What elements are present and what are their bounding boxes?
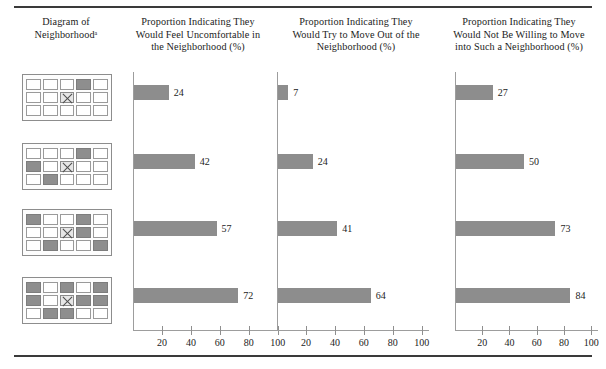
- bar: [278, 288, 371, 303]
- chart-not-willing: 2040608010027507384: [455, 72, 598, 330]
- x-axis-tick-label: 100: [584, 337, 599, 348]
- header-line: the Neighborhood (%): [122, 41, 274, 54]
- filled-house-cell: [43, 174, 58, 185]
- x-axis-tick: [191, 326, 192, 335]
- column-header-uncomfortable: Proportion Indicating TheyWould Feel Unc…: [122, 16, 274, 54]
- bar: [456, 288, 570, 303]
- x-axis-tick-label: 100: [414, 337, 429, 348]
- respondent-cell: [60, 295, 75, 306]
- empty-house-cell: [43, 295, 58, 306]
- header-line: Would Feel Uncomfortable in: [122, 29, 274, 42]
- x-axis-tick: [162, 326, 163, 335]
- x-axis-tick-label: 60: [215, 337, 225, 348]
- filled-house-cell: [76, 79, 91, 90]
- header-line: Proportion Indicating They: [282, 16, 430, 29]
- neighborhood-diagram-4: [22, 277, 112, 324]
- empty-house-cell: [93, 92, 108, 103]
- empty-house-cell: [26, 240, 41, 251]
- bar-value-label: 57: [222, 223, 232, 234]
- bar: [456, 154, 524, 169]
- filled-house-cell: [76, 295, 91, 306]
- x-axis-tick-label: 40: [504, 337, 514, 348]
- x-axis-tick-label: 40: [186, 337, 196, 348]
- header-line: Would Not Be Willing to Move: [440, 29, 598, 42]
- empty-house-cell: [93, 161, 108, 172]
- filled-house-cell: [93, 282, 108, 293]
- x-axis-tick: [422, 326, 423, 335]
- header-line: Neighborhood (%): [282, 41, 430, 54]
- x-axis-line: [455, 330, 598, 331]
- x-axis-tick: [220, 326, 221, 335]
- x-axis-tick: [306, 326, 307, 335]
- respondent-cell: [60, 227, 75, 238]
- bar-value-label: 27: [498, 87, 508, 98]
- bar-value-label: 50: [529, 156, 539, 167]
- empty-house-cell: [93, 308, 108, 319]
- empty-house-cell: [26, 227, 41, 238]
- x-axis-tick: [364, 326, 365, 335]
- empty-house-cell: [43, 214, 58, 225]
- x-axis-tick: [249, 326, 250, 335]
- diagram-grid: [26, 148, 108, 185]
- x-axis-tick: [564, 326, 565, 335]
- x-axis-tick: [482, 326, 483, 335]
- bar-value-label: 42: [200, 156, 210, 167]
- bar-value-label: 73: [560, 223, 570, 234]
- chart-uncomfortable: 2040608010024425772: [133, 72, 285, 330]
- neighborhood-diagram-2: [22, 143, 112, 190]
- bar: [456, 221, 555, 236]
- column-header-diagram: Diagram ofNeighborhoodᵃ: [14, 16, 118, 41]
- header-line: Would Try to Move Out of the: [282, 29, 430, 42]
- filled-house-cell: [26, 295, 41, 306]
- bar: [134, 85, 169, 100]
- x-axis-tick: [393, 326, 394, 335]
- bar-value-label: 41: [342, 223, 352, 234]
- filled-house-cell: [60, 282, 75, 293]
- empty-house-cell: [76, 92, 91, 103]
- diagram-grid: [26, 79, 108, 116]
- bar-value-label: 72: [243, 290, 253, 301]
- bar-value-label: 84: [575, 290, 585, 301]
- empty-house-cell: [76, 240, 91, 251]
- neighborhood-diagram-1: [22, 74, 112, 121]
- bar: [278, 154, 313, 169]
- bar: [134, 154, 195, 169]
- bar: [134, 288, 238, 303]
- empty-house-cell: [93, 79, 108, 90]
- empty-house-cell: [60, 240, 75, 251]
- empty-house-cell: [60, 79, 75, 90]
- empty-house-cell: [60, 174, 75, 185]
- empty-house-cell: [93, 214, 108, 225]
- empty-house-cell: [93, 105, 108, 116]
- x-axis-tick: [591, 326, 592, 335]
- column-header-move-out: Proportion Indicating TheyWould Try to M…: [282, 16, 430, 54]
- figure-container: Diagram ofNeighborhoodᵃ Proportion Indic…: [0, 0, 606, 369]
- x-axis-tick-label: 80: [559, 337, 569, 348]
- empty-house-cell: [76, 174, 91, 185]
- x-axis-tick: [537, 326, 538, 335]
- filled-house-cell: [26, 282, 41, 293]
- empty-house-cell: [43, 227, 58, 238]
- empty-house-cell: [26, 79, 41, 90]
- chart-move-out: 204060801007244164: [277, 72, 429, 330]
- empty-house-cell: [26, 92, 41, 103]
- x-axis-tick-label: 20: [301, 337, 311, 348]
- empty-house-cell: [26, 105, 41, 116]
- filled-house-cell: [43, 308, 58, 319]
- header-line: Diagram of: [14, 16, 118, 29]
- x-axis-tick-label: 20: [477, 337, 487, 348]
- empty-house-cell: [76, 308, 91, 319]
- empty-house-cell: [60, 148, 75, 159]
- header-line: into Such a Neighborhood (%): [440, 41, 598, 54]
- respondent-cell: [60, 161, 75, 172]
- x-axis-tick-label: 60: [532, 337, 542, 348]
- empty-house-cell: [43, 92, 58, 103]
- x-axis-tick-label: 40: [330, 337, 340, 348]
- bar: [278, 221, 337, 236]
- x-axis-line: [133, 330, 285, 331]
- x-axis-tick-label: 80: [244, 337, 254, 348]
- x-axis-tick-label: 20: [157, 337, 167, 348]
- filled-house-cell: [26, 214, 41, 225]
- neighborhood-diagram-3: [22, 209, 112, 256]
- bar: [278, 85, 288, 100]
